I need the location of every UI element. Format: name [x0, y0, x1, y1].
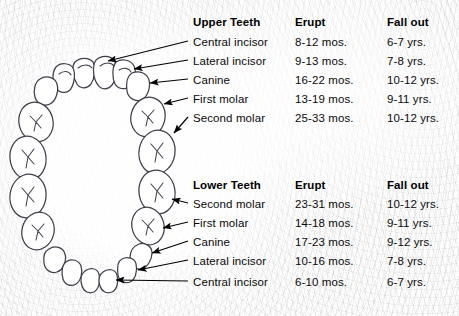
dental-chart-page: .tooth{fill:#ffffff;stroke:#3f3f4b;strok… [0, 0, 459, 316]
table-row: 10-12 yrs. [387, 198, 439, 210]
arrow-upper-canine [150, 79, 188, 83]
arrow-lower-first-molar [163, 222, 188, 228]
upper-header-erupt: Erupt [295, 16, 326, 28]
table-row: 10-12 yrs. [387, 74, 439, 86]
upper-header-fall-out: Fall out [387, 16, 429, 28]
table-row: 7-8 yrs. [387, 255, 426, 267]
table-row: 7-8 yrs. [387, 55, 426, 67]
table-row: Canine [193, 74, 230, 86]
lower-header-fall-out: Fall out [387, 179, 429, 191]
table-row: Central incisor [193, 36, 268, 48]
arrow-upper-first-molar [164, 98, 188, 104]
table-row: 17-23 mos. [295, 236, 354, 248]
table-row: 10-12 yrs. [387, 112, 439, 124]
arrow-upper-second-molar [174, 117, 188, 133]
table-row: 23-31 mos. [295, 198, 354, 210]
arrow-upper-lateral-incisor [134, 60, 188, 69]
table-row: 6-7 yrs. [387, 276, 426, 288]
table-row: 10-16 mos. [295, 255, 354, 267]
table-row: Central incisor [193, 276, 268, 288]
lower-header-teeth: Lower Teeth [193, 179, 261, 191]
table-row: 14-18 mos. [295, 217, 354, 229]
lower-header-erupt: Erupt [295, 179, 326, 191]
table-row: Second molar [193, 198, 265, 210]
upper-arch-group [7, 56, 178, 182]
table-row: Lateral incisor [193, 55, 266, 67]
table-row: 9-11 yrs. [387, 217, 432, 229]
table-row: First molar [193, 93, 248, 105]
table-row: 13-19 mos. [295, 93, 354, 105]
table-row: Second molar [193, 112, 265, 124]
table-row: 9-11 yrs. [387, 93, 432, 105]
table-row: Lateral incisor [193, 255, 266, 267]
table-row: 6-10 mos. [295, 276, 347, 288]
upper-header-teeth: Upper Teeth [193, 16, 260, 28]
table-row: 9-13 mos. [295, 55, 347, 67]
table-row: First molar [193, 217, 248, 229]
table-row: 16-22 mos. [295, 74, 354, 86]
table-row: 9-12 yrs. [387, 236, 433, 248]
table-row: 6-7 yrs. [387, 36, 426, 48]
lower-arch-group [7, 167, 178, 292]
table-row: Canine [193, 236, 230, 248]
table-row: 8-12 mos. [295, 36, 347, 48]
table-row: 25-33 mos. [295, 112, 354, 124]
arrow-upper-central-incisor [108, 41, 188, 61]
